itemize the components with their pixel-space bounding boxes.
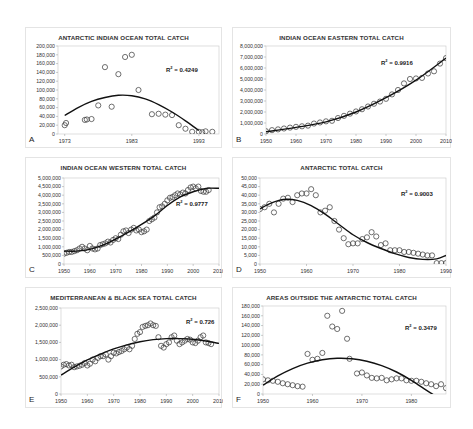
y-tick-label: 50,000 (241, 175, 257, 181)
y-tick-label: 3,000,000 (240, 98, 263, 104)
x-tick-label: 1960 (84, 268, 96, 274)
y-tick-label: 2,000,000 (38, 226, 61, 232)
x-tick-label: 1950 (254, 268, 266, 274)
y-tick-label: 40,000 (244, 371, 260, 377)
y-tick-label: 0 (52, 131, 55, 137)
y-tick-label: 2,000,000 (240, 109, 263, 115)
x-tick-label: 2010 (213, 398, 223, 404)
y-tick-label: 30,000 (241, 209, 257, 215)
panel-label: C (29, 265, 35, 274)
y-tick-label: 1,000,000 (240, 120, 263, 126)
panel-e: MEDITERRANEAN & BLACK SEA TOTAL CATCH 05… (25, 287, 222, 408)
y-tick-label: 120,000 (241, 332, 260, 338)
x-tick-label: 2000 (187, 398, 199, 404)
y-tick-label: 100,000 (36, 87, 55, 93)
y-tick-label: 20,000 (244, 381, 260, 387)
y-tick-label: 2,000,000 (35, 322, 58, 328)
y-tick-label: 40,000 (39, 113, 55, 119)
x-tick-label: 1950 (58, 268, 70, 274)
x-tick-label: 1950 (55, 398, 67, 404)
y-tick-label: 2,500,000 (38, 218, 61, 224)
y-tick-label: 45,000 (241, 183, 257, 189)
x-tick-label: 1960 (290, 138, 302, 144)
y-tick-label: 20,000 (241, 226, 257, 232)
panel-label: A (29, 135, 34, 144)
y-tick-label: 6,000,000 (240, 65, 263, 71)
x-tick-label: 1970 (356, 398, 368, 404)
y-tick-label: 160,000 (241, 313, 260, 319)
x-tick-label: 1973 (59, 138, 71, 144)
panel-d: ANTARCTIC TOTAL CATCH 05,00010,00015,000… (232, 157, 451, 278)
panel-c: INDIAN OCEAN WESTERN TOTAL CATCH 0500,00… (25, 157, 222, 278)
y-tick-label: 500,000 (42, 252, 61, 258)
x-tick-label: 1980 (350, 138, 362, 144)
r-squared-label: R2 = 0.9916 (381, 58, 413, 66)
x-tick-label: 1980 (136, 268, 148, 274)
y-tick-label: 3,500,000 (38, 201, 61, 207)
chart-svg: 0500,0001,000,0001,500,0002,000,0002,500… (26, 288, 223, 409)
panel-label: E (29, 395, 34, 404)
x-tick-label: 1960 (81, 398, 93, 404)
y-tick-label: 0 (55, 391, 58, 397)
y-tick-label: 25,000 (241, 218, 257, 224)
x-tick-label: 1980 (405, 398, 417, 404)
y-tick-label: 4,500,000 (38, 183, 61, 189)
y-tick-label: 140,000 (241, 322, 260, 328)
panel-f: AREAS OUTSIDE THE ANTARCTIC TOTAL CATCH … (232, 287, 451, 408)
y-tick-label: 140,000 (36, 69, 55, 75)
panel-label: D (236, 265, 242, 274)
y-tick-label: 1,500,000 (38, 235, 61, 241)
x-tick-label: 1983 (126, 138, 138, 144)
y-tick-label: 1,000,000 (35, 356, 58, 362)
x-tick-label: 1960 (301, 268, 313, 274)
x-tick-label: 1990 (160, 398, 172, 404)
y-tick-label: 0 (58, 261, 61, 267)
x-tick-label: 2010 (213, 268, 223, 274)
x-tick-label: 1980 (134, 398, 146, 404)
y-tick-label: 20,000 (39, 122, 55, 128)
r-squared-label: R2 = 0.9003 (401, 189, 433, 197)
y-tick-label: 5,000,000 (38, 175, 61, 181)
y-tick-label: 8,000,000 (240, 43, 263, 49)
y-tick-label: 10,000 (241, 244, 257, 250)
y-tick-label: 120,000 (36, 78, 55, 84)
y-tick-label: 80,000 (244, 352, 260, 358)
y-tick-label: 160,000 (36, 60, 55, 66)
y-tick-label: 180,000 (241, 303, 260, 309)
x-tick-label: 1970 (108, 398, 120, 404)
y-tick-label: 7,000,000 (240, 54, 263, 60)
x-tick-label: 1990 (440, 268, 452, 274)
y-tick-label: 15,000 (241, 235, 257, 241)
y-tick-label: 2,500,000 (35, 305, 58, 311)
panel-a: ANTARCTIC INDIAN OCEAN TOTAL CATCH 020,0… (25, 27, 222, 148)
y-tick-label: 0 (257, 391, 260, 397)
x-tick-label: 1993 (193, 138, 205, 144)
y-tick-label: 180,000 (36, 52, 55, 58)
r-squared-label: R2 = 0.726 (186, 317, 214, 325)
x-tick-label: 1950 (260, 138, 272, 144)
y-tick-label: 60,000 (244, 361, 260, 367)
y-tick-label: 100,000 (241, 342, 260, 348)
r-squared-label: R2 = 0.9777 (176, 199, 208, 207)
chart-svg: 020,00040,00060,00080,000100,000120,0001… (26, 28, 223, 149)
x-tick-label: 1980 (394, 268, 406, 274)
x-tick-label: 1970 (320, 138, 332, 144)
y-tick-label: 80,000 (39, 96, 55, 102)
r-squared-label: R2 = 0.3479 (405, 323, 437, 331)
plot-area (266, 46, 446, 134)
chart-svg: 020,00040,00060,00080,000100,000120,0001… (233, 288, 452, 409)
x-tick-label: 2000 (410, 138, 422, 144)
y-tick-label: 1,000,000 (38, 244, 61, 250)
chart-svg: 01,000,0002,000,0003,000,0004,000,0005,0… (233, 28, 452, 149)
y-tick-label: 500,000 (39, 374, 58, 380)
x-tick-label: 1950 (257, 398, 269, 404)
r-squared-label: R2 = 0.4249 (166, 65, 198, 73)
chart-svg: 05,00010,00015,00020,00025,00030,00035,0… (233, 158, 452, 279)
y-tick-label: 60,000 (39, 104, 55, 110)
x-tick-label: 1990 (380, 138, 392, 144)
x-tick-label: 2010 (440, 138, 452, 144)
y-tick-label: 200,000 (36, 43, 55, 49)
panel-label: F (236, 395, 241, 404)
y-tick-label: 40,000 (241, 192, 257, 198)
x-tick-label: 1960 (306, 398, 318, 404)
